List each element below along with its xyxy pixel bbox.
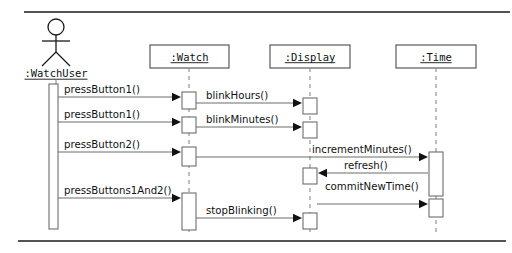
actor-leg-right: [56, 52, 70, 66]
message-label-6: incrementMinutes(): [312, 144, 412, 155]
activation-bar-watchuser-0: [49, 84, 58, 229]
message-7-refresh[interactable]: refresh(): [318, 160, 428, 177]
participant-label-watch: :Watch: [171, 51, 209, 63]
message-label-4: blinkMinutes(): [206, 114, 279, 125]
message-label-1: pressButton1(): [64, 84, 140, 95]
activation-bar-display-5: [303, 98, 317, 114]
message-arrowhead-3: [172, 118, 181, 126]
participant-label-display: :Display: [285, 51, 336, 63]
message-label-3: pressButton1(): [64, 109, 140, 120]
activation-bar-watch-3: [182, 147, 196, 166]
message-1-pressbutton1[interactable]: pressButton1(): [58, 84, 181, 101]
message-4-blinkminutes[interactable]: blinkMinutes(): [196, 114, 302, 131]
message-arrowhead-7: [318, 169, 327, 177]
message-9-commitnewtime[interactable]: commitNewTime(): [317, 181, 428, 208]
message-arrowhead-5: [172, 148, 181, 156]
message-label-8: pressButtons1And2(): [64, 185, 172, 196]
message-arrowhead-1: [172, 93, 181, 101]
participant-boxes: :Watch:Display:Time: [150, 45, 476, 68]
activation-bar-display-6: [303, 122, 317, 138]
message-arrowhead-6: [419, 153, 428, 161]
sequence-diagram-canvas: :WatchUser :Watch:Display:Time pressButt…: [0, 0, 512, 253]
message-10-stopblinking[interactable]: stopBlinking(): [196, 205, 302, 222]
actor-head-icon: [48, 19, 64, 35]
message-arrowhead-9: [419, 200, 428, 208]
message-8-pressbuttons1and2[interactable]: pressButtons1And2(): [58, 185, 181, 202]
activation-bar-display-8: [303, 213, 317, 229]
actor-label-watchuser: :WatchUser: [24, 67, 87, 79]
message-label-10: stopBlinking(): [206, 205, 277, 216]
messages: pressButton1()blinkHours()pressButton1()…: [58, 84, 428, 222]
message-2-blinkhours[interactable]: blinkHours(): [196, 90, 302, 107]
participant-label-time: :Time: [420, 51, 452, 63]
message-label-5: pressButton2(): [64, 139, 140, 150]
message-arrowhead-10: [293, 214, 302, 222]
message-3-pressbutton1[interactable]: pressButton1(): [58, 109, 181, 126]
activation-bar-watch-2: [182, 117, 196, 133]
message-label-7: refresh(): [344, 160, 388, 171]
activation-bar-time-9: [429, 152, 443, 196]
activation-bar-watch-4: [182, 193, 196, 230]
activation-bar-display-7: [303, 168, 317, 184]
message-label-9: commitNewTime(): [325, 181, 419, 192]
activation-bar-watch-1: [182, 92, 196, 109]
message-arrowhead-8: [172, 194, 181, 202]
activation-bar-time-10: [429, 199, 443, 217]
sequence-diagram-svg: :WatchUser :Watch:Display:Time pressButt…: [0, 0, 512, 253]
message-arrowhead-2: [293, 99, 302, 107]
message-6-incrementminutes[interactable]: incrementMinutes(): [196, 144, 428, 161]
message-arrowhead-4: [293, 123, 302, 131]
actor-watchuser: :WatchUser: [24, 19, 87, 79]
message-5-pressbutton2[interactable]: pressButton2(): [58, 139, 181, 156]
message-label-2: blinkHours(): [206, 90, 268, 101]
actor-leg-left: [42, 52, 56, 66]
